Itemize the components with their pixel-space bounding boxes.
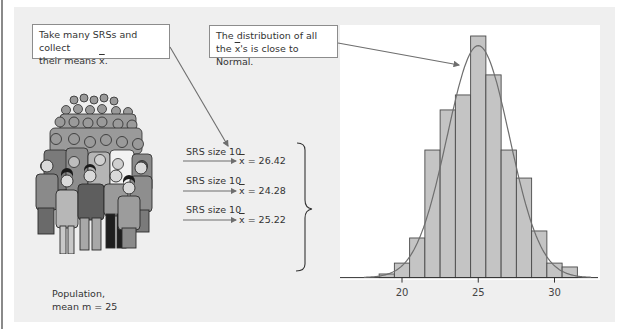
- histogram-bar: [425, 150, 440, 278]
- histogram-bar: [455, 95, 470, 278]
- x-axis-ticks: 202530: [396, 278, 561, 298]
- x-tick-label: 20: [396, 287, 409, 298]
- callout-1-arrow: [170, 47, 228, 146]
- histogram-bar: [516, 178, 531, 278]
- x-tick-label: 30: [548, 287, 561, 298]
- histogram-bar: [532, 231, 547, 278]
- histogram-bar: [501, 150, 516, 278]
- histogram-bar: [471, 36, 486, 278]
- callout-2-arrow: [338, 43, 459, 65]
- x-tick-label: 25: [472, 287, 485, 298]
- curly-brace: [296, 143, 312, 271]
- histogram-bar: [486, 75, 501, 278]
- histogram-bars: [379, 36, 577, 278]
- diagram-overlay: 202530: [0, 0, 621, 329]
